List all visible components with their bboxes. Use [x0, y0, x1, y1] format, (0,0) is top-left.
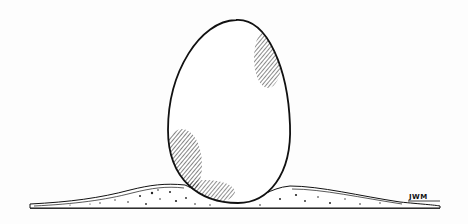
artist-signature: JWM [409, 193, 428, 201]
drawing [0, 0, 468, 224]
egg [162, 20, 290, 204]
egg-illustration: JWM [0, 0, 468, 224]
